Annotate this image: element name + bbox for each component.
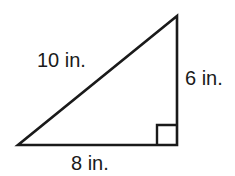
right-angle-icon (157, 125, 176, 144)
horizontal-leg-length-label: 8 in. (71, 153, 109, 173)
triangle-outline (18, 16, 177, 145)
hypotenuse-length-label: 10 in. (37, 50, 86, 70)
triangle-figure: 10 in. 6 in. 8 in. (0, 0, 235, 176)
vertical-leg-length-label: 6 in. (185, 68, 223, 88)
